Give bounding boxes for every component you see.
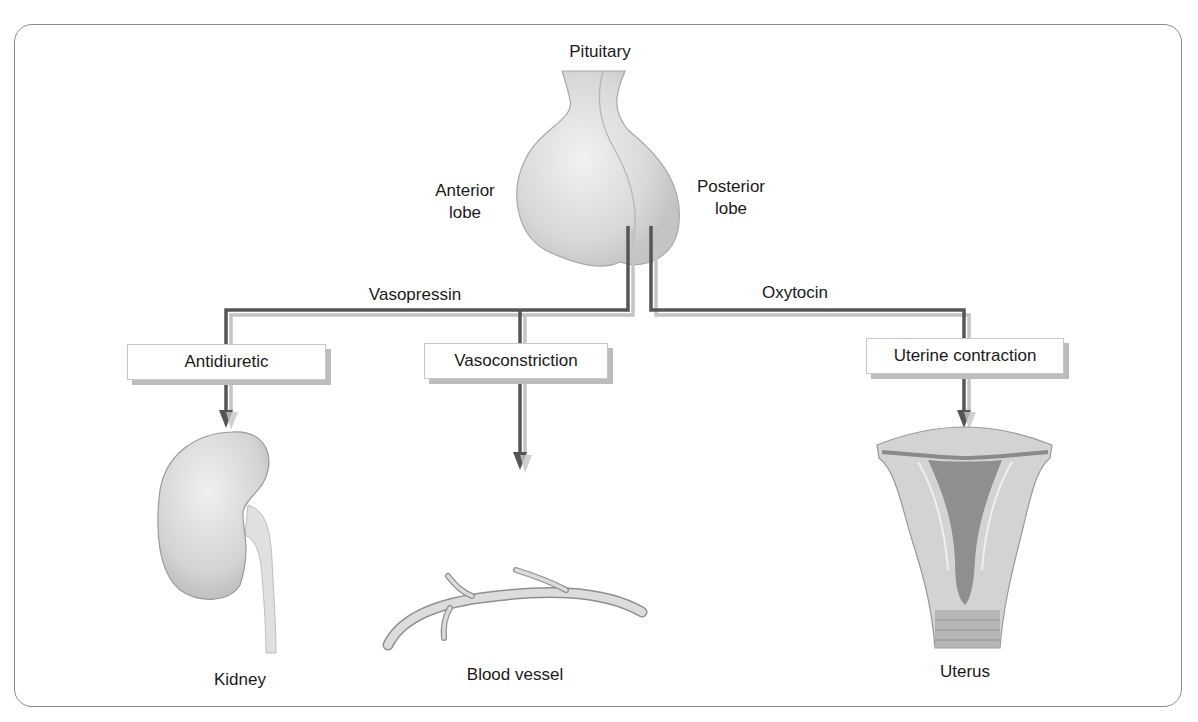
uterine-contraction-box: Uterine contraction xyxy=(866,338,1064,374)
anterior-lobe-line2: lobe xyxy=(420,202,510,224)
posterior-lobe-line1: Posterior xyxy=(681,176,781,198)
vasopressin-label: Vasopressin xyxy=(360,284,470,306)
blood-vessel-label: Blood vessel xyxy=(445,664,585,686)
kidney-label: Kidney xyxy=(190,669,290,691)
uterus-label: Uterus xyxy=(920,661,1010,683)
anterior-lobe-line1: Anterior xyxy=(420,180,510,202)
uterus-icon xyxy=(877,427,1052,648)
antidiuretic-box: Antidiuretic xyxy=(127,344,326,380)
posterior-lobe-label: Posterior lobe xyxy=(681,176,781,220)
pituitary-label: Pituitary xyxy=(555,41,645,63)
posterior-lobe-line2: lobe xyxy=(681,198,781,220)
vasoconstriction-box: Vasoconstriction xyxy=(424,343,608,379)
arrowheads xyxy=(219,410,976,473)
oxytocin-label: Oxytocin xyxy=(750,282,840,304)
kidney-icon xyxy=(158,432,276,653)
blood-vessel-icon xyxy=(388,570,642,645)
anterior-lobe-label: Anterior lobe xyxy=(420,180,510,224)
